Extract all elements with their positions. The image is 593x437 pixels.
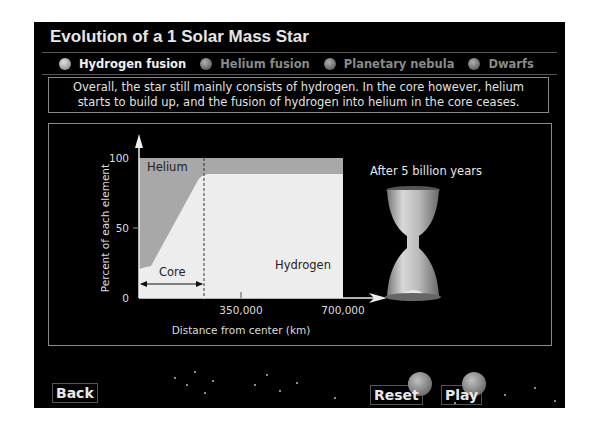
- description-box: Overall, the star still mainly consists …: [48, 77, 549, 113]
- tab-planetary-nebula[interactable]: Planetary nebula: [324, 57, 455, 71]
- back-button[interactable]: Back: [52, 383, 98, 403]
- tab-label: Hydrogen fusion: [79, 57, 186, 71]
- y-tick-100: 100: [109, 152, 129, 164]
- bullet-ball-icon: [468, 58, 480, 70]
- title-divider: [42, 52, 557, 53]
- bullet-ball-icon: [200, 58, 212, 70]
- tab-label: Planetary nebula: [344, 57, 455, 71]
- chart-panel: 100 50 0 350,000 700,000 Distance from c…: [48, 123, 552, 346]
- tab-label: Dwarfs: [488, 57, 533, 71]
- bullet-ball-icon: [59, 58, 71, 70]
- element-composition-chart: 100 50 0 350,000 700,000 Distance from c…: [49, 124, 551, 345]
- y-axis-label: Percent of each element: [99, 164, 111, 292]
- hydrogen-label: Hydrogen: [275, 258, 331, 272]
- y-tick-50: 50: [116, 222, 129, 234]
- y-axis-arrow-icon: [135, 134, 143, 148]
- reset-button[interactable]: Reset: [370, 385, 423, 405]
- page-title: Evolution of a 1 Solar Mass Star: [50, 27, 309, 47]
- description-line-1: Overall, the star still mainly consists …: [49, 80, 548, 95]
- description-line-2: starts to build up, and the fusion of hy…: [49, 95, 548, 110]
- tab-label: Helium fusion: [220, 57, 310, 71]
- tab-hydrogen-fusion[interactable]: Hydrogen fusion: [59, 57, 186, 71]
- tabs-divider: [42, 74, 557, 75]
- x-tick-350000: 350,000: [219, 304, 262, 316]
- core-label: Core: [159, 265, 186, 279]
- tab-dwarfs[interactable]: Dwarfs: [468, 57, 533, 71]
- tab-helium-fusion[interactable]: Helium fusion: [200, 57, 310, 71]
- simulation-frame: Evolution of a 1 Solar Mass Star Hydroge…: [34, 22, 565, 408]
- time-label: After 5 billion years: [370, 164, 482, 178]
- hourglass-icon: [385, 186, 441, 301]
- helium-label: Helium: [147, 160, 188, 174]
- x-axis-label: Distance from center (km): [172, 324, 311, 336]
- play-button[interactable]: Play: [441, 385, 482, 405]
- x-tick-700000: 700,000: [321, 304, 364, 316]
- bullet-ball-icon: [324, 58, 336, 70]
- stage-tabs: Hydrogen fusion Helium fusion Planetary …: [59, 55, 555, 73]
- y-tick-0: 0: [122, 292, 129, 304]
